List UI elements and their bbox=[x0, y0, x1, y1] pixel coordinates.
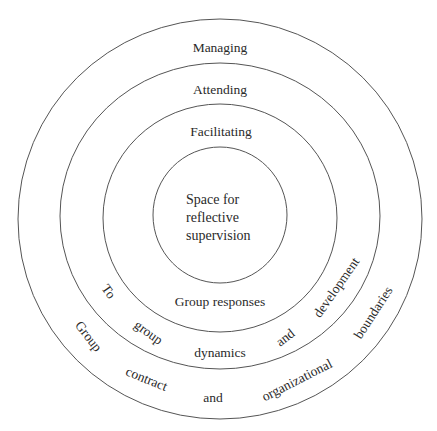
label-development: development bbox=[310, 254, 362, 320]
label-contract: contract bbox=[124, 364, 170, 394]
label-core-line3: supervision bbox=[186, 228, 251, 243]
label-group-lower: group bbox=[131, 317, 165, 348]
label-and-inner: and bbox=[273, 325, 298, 349]
label-organizational: organizational bbox=[259, 356, 335, 404]
label-dynamics: dynamics bbox=[194, 345, 246, 360]
label-and-outer: and bbox=[203, 390, 223, 405]
label-to: To bbox=[99, 281, 119, 301]
label-facilitating: Facilitating bbox=[190, 124, 252, 139]
reflective-supervision-diagram: Managing Attending Facilitating Space fo… bbox=[0, 0, 437, 431]
label-managing: Managing bbox=[193, 40, 248, 55]
label-core-line2: reflective bbox=[186, 210, 239, 225]
label-group-responses: Group responses bbox=[175, 294, 265, 309]
label-attending: Attending bbox=[193, 82, 247, 97]
label-core-line1: Space for bbox=[186, 192, 240, 207]
label-boundaries: boundaries bbox=[351, 284, 396, 342]
label-group-upper: Group bbox=[72, 318, 105, 355]
